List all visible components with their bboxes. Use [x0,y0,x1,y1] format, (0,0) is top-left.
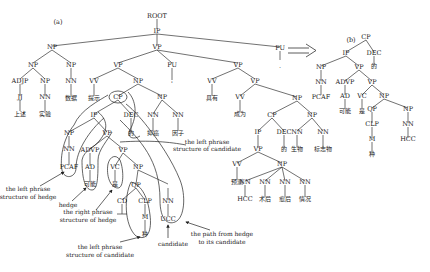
node-jj: JJ [16,93,23,101]
node-cp: CP [113,93,123,101]
node-vv: VV [206,77,217,85]
node-np: NP [316,63,327,71]
annotation-left-candidate-top-2: structure of candidate [173,145,241,152]
node-qp: QP [367,105,377,113]
node-ip: IP [154,27,162,35]
word-shuju: 数据 [65,94,77,102]
node-adjp: ADJP [11,77,30,85]
node-pu: PU [167,61,177,69]
node-m: M [142,213,149,221]
annotation-left-candidate: the left phrase [78,243,123,251]
node-cp: CP [267,111,277,119]
node-dec: DEC [124,111,139,119]
node-nn: NN [299,178,311,186]
node-np: NP [28,61,39,69]
annotation-right-hedge: the right phrase [63,208,113,216]
parse-tree-diagram: (a) ROOT IP NP VP PU . NP NP ADJP NP NN … [0,0,430,272]
node-np: NP [64,129,75,137]
node-nn: NN [63,145,75,153]
word-de: 的 [281,145,287,153]
transform-arrow [288,44,316,57]
node-vv: VV [234,93,245,101]
node-nn: NN [39,93,51,101]
node-vp: VP [249,77,260,85]
node-np: NP [40,77,51,85]
node-np: NP [403,105,414,113]
word-keneng: 可能 [84,180,96,188]
node-np: NP [66,61,77,69]
annotation-left-candidate-2: structure of candidate [66,251,134,258]
node-vp: VP [117,146,128,154]
word-shi: 是 [112,180,118,188]
annotation-candidate: candidate [158,240,188,247]
node-nn: NN [317,128,329,136]
node-cd: CD [117,197,127,205]
node-np: NP [292,94,303,102]
word-shengwu: 生物 [291,145,303,153]
node-vp: VP [151,43,162,51]
node-nn: NN [315,78,327,86]
word-de: 的 [371,62,377,70]
node-np: NP [157,93,168,101]
word-qingkuang: 情况 [299,195,311,203]
node-nn: NN [162,197,174,205]
node-nn: NN [239,178,251,186]
node-hcc: HCC [400,135,416,143]
word-shiyan: 实验 [39,110,51,118]
word-shuhou: 术后 [259,195,271,203]
node-np: NP [277,160,288,168]
node-np: NP [133,163,144,171]
node-nn: NN [402,120,414,128]
node-nn: NN [279,178,291,186]
word-hcc: HCC [237,195,253,203]
node-vc: VC [109,163,120,171]
node-cp: CP [361,33,371,41]
node-pu: PU [275,44,285,52]
node-ip: IP [255,128,263,136]
word-yiai: 抑癌 [147,129,159,137]
node-vc: VC [356,92,367,100]
word-zhong: 种 [369,150,375,158]
node-nn: NN [291,128,303,136]
node-vp: VP [353,63,364,71]
punct-comma: ' [171,80,173,88]
word-shangshu: 上述 [14,110,26,118]
annotation-left-hedge-2: structure of hedge [0,193,57,201]
word-yinzi: 因子 [172,129,184,137]
node-advp: ADVP [335,78,355,86]
tree-b-nodes: (b) CP IP DEC 的 NP VP NN PCAF ADVP AD 可能… [312,33,416,158]
annotation-right-hedge-2: structure of hedge [60,216,117,224]
node-np: NP [379,92,390,100]
panel-b-label: (b) [346,36,356,44]
node-advp: ADVP [80,146,100,154]
node-root: ROOT [147,12,168,20]
word-fuhou: 愈后 [279,195,291,203]
node-dec: DEC [367,49,382,57]
node-vp: VP [366,78,377,86]
node-nn: NN [259,178,271,186]
node-clp: CLP [138,197,152,205]
annotation-path-2: to its candidate [198,238,246,245]
punct-period: . [279,62,281,70]
node-vv: VV [231,160,242,168]
node-np: NP [133,77,144,85]
node-ip: IP [343,49,351,57]
node-nn: NN [172,111,184,119]
node-ad: AD [339,92,350,100]
annotation-left-hedge: the left phrase [6,185,51,193]
node-vv: VV [88,77,99,85]
node-np: NP [307,111,318,119]
node-ad: AD [84,163,95,171]
word-keneng: 可能 [339,107,351,115]
node-nn: NN [147,111,159,119]
node-vp: VP [252,145,263,153]
panel-a-label: (a) [54,18,63,26]
node-m: M [369,135,376,143]
node-dec: DEC [277,128,292,136]
word-juyou: 具有 [206,94,218,102]
node-vp: VP [112,61,123,69]
node-np: NP [47,43,58,51]
word-shi: 是 [359,107,365,115]
node-vp: VP [232,61,243,69]
node-nn: NN [65,77,77,85]
